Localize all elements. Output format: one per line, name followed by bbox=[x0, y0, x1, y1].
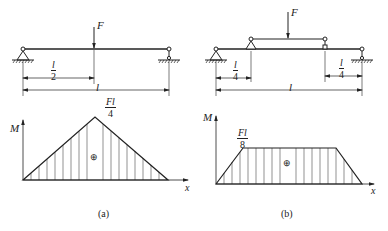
force-label-a: F bbox=[97, 20, 104, 31]
m-axis-label-a: M bbox=[10, 123, 19, 134]
x-axis-label-b: x bbox=[371, 186, 375, 196]
dim-full-label-b: l bbox=[289, 82, 292, 93]
link-support-b-upper-right-icon bbox=[323, 37, 327, 49]
plateau-label-b: Fl 8 bbox=[237, 128, 248, 150]
caption-b: (b) bbox=[281, 209, 293, 219]
dim-right-label-b: l 4 bbox=[339, 58, 344, 80]
sign-plus-b: ⊕ bbox=[283, 159, 291, 168]
moment-diagram-a bbox=[23, 117, 188, 180]
sign-plus-a: ⊕ bbox=[90, 153, 98, 162]
caption-a: (a) bbox=[98, 209, 109, 219]
dim-full-label-a: l bbox=[96, 82, 99, 93]
dim-half-label-a: l 2 bbox=[51, 60, 56, 82]
m-axis-label-b: M bbox=[203, 112, 212, 123]
moment-triangle-a bbox=[23, 117, 168, 180]
peak-label-a: Fl 4 bbox=[105, 97, 116, 119]
diagram-canvas bbox=[0, 0, 388, 231]
dim-left-label-b: l 4 bbox=[233, 60, 238, 82]
x-axis-label-a: x bbox=[185, 183, 189, 193]
force-label-b: F bbox=[291, 7, 298, 18]
